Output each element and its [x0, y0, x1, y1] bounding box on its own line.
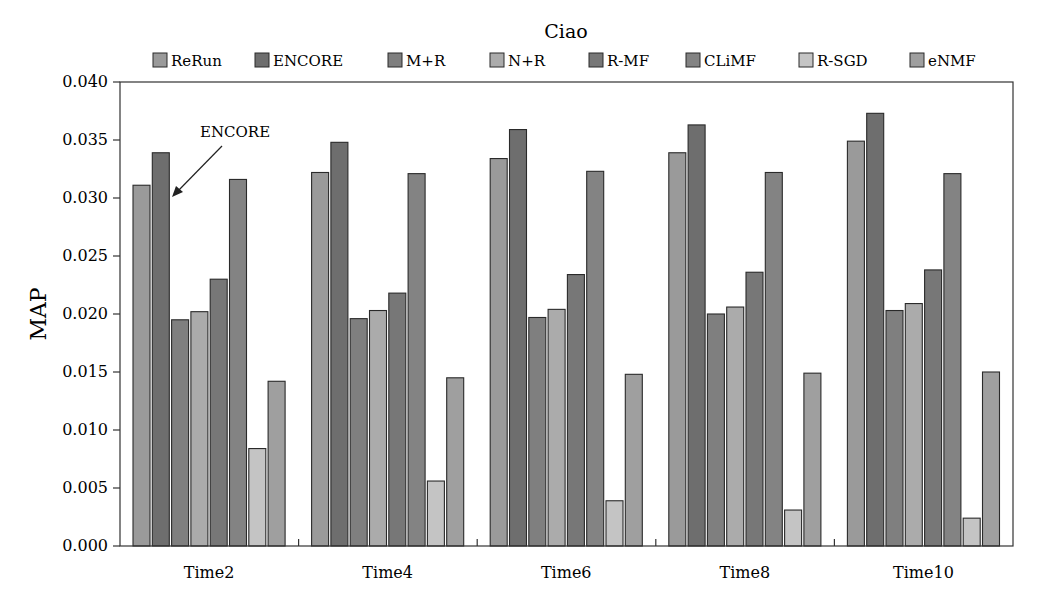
bar-r-sgd: R-SGD Time10: 0.0024 [963, 518, 980, 546]
x-category-label: Time10 [893, 563, 954, 582]
bar-encore: ENCORE Time6: 0.0359 [510, 130, 527, 546]
bar-m-r: M+R Time8: 0.02 [707, 314, 724, 546]
legend-label: CLiMF [704, 52, 756, 70]
legend-item-climf: CLiMF [686, 52, 756, 70]
bar-chart: Ciao ReRunENCOREM+RN+RR-MFCLiMFR-SGDeNMF… [0, 0, 1041, 612]
bar-r-mf: R-MF Time2: 0.023 [210, 279, 227, 546]
legend-item-enmf: eNMF [910, 52, 976, 70]
x-category-label: Time2 [184, 563, 235, 582]
bar-r-sgd: R-SGD Time6: 0.0039 [606, 501, 623, 546]
bar-climf: CLiMF Time10: 0.0321 [944, 174, 961, 546]
bar-climf: CLiMF Time4: 0.0321 [408, 174, 425, 546]
bar-rerun: ReRun Time8: 0.0339 [669, 153, 686, 546]
legend-swatch [255, 53, 269, 67]
bar-n-r: N+R Time10: 0.0209 [905, 304, 922, 546]
bar-r-mf: R-MF Time10: 0.0238 [925, 270, 942, 546]
encore-annotation: ENCORE [172, 123, 270, 197]
bar-n-r: N+R Time8: 0.0206 [727, 307, 744, 546]
legend-label: R-SGD [817, 52, 868, 70]
bar-enmf: eNMF Time8: 0.0149 [804, 373, 821, 546]
y-tick-label: 0.025 [62, 246, 108, 265]
bar-n-r: N+R Time6: 0.0204 [548, 309, 565, 546]
y-tick-label: 0.010 [62, 420, 108, 439]
annotation-arrow-line [176, 146, 222, 193]
bar-r-sgd: R-SGD Time4: 0.0056 [427, 481, 444, 546]
y-tick-label: 0.030 [62, 188, 108, 207]
bar-m-r: M+R Time4: 0.0196 [350, 319, 367, 546]
bar-rerun: ReRun Time2: 0.0311 [133, 185, 150, 546]
legend: ReRunENCOREM+RN+RR-MFCLiMFR-SGDeNMF [153, 52, 976, 70]
legend-label: M+R [406, 52, 446, 70]
bar-enmf: eNMF Time10: 0.015 [983, 372, 1000, 546]
x-category-label: Time4 [362, 563, 413, 582]
legend-swatch [910, 53, 924, 67]
legend-item-r-mf: R-MF [589, 52, 649, 70]
bars: ReRun Time2: 0.0311ENCORE Time2: 0.0339M… [133, 113, 1000, 546]
bar-rerun: ReRun Time6: 0.0334 [490, 159, 507, 546]
bar-r-mf: R-MF Time4: 0.0218 [389, 293, 406, 546]
x-category-label: Time6 [541, 563, 592, 582]
y-tick-label: 0.020 [62, 304, 108, 323]
bar-encore: ENCORE Time10: 0.0373 [867, 113, 884, 546]
legend-label: eNMF [928, 52, 976, 70]
y-axis: 0.0000.0050.0100.0150.0200.0250.0300.035… [62, 72, 120, 555]
annotation-label: ENCORE [200, 123, 270, 141]
bar-group-time8: ReRun Time8: 0.0339ENCORE Time8: 0.0363M… [669, 125, 821, 546]
bar-climf: CLiMF Time6: 0.0323 [587, 171, 604, 546]
legend-item-encore: ENCORE [255, 52, 343, 70]
bar-climf: CLiMF Time8: 0.0322 [765, 172, 782, 546]
bar-r-sgd: R-SGD Time2: 0.0084 [249, 449, 266, 546]
bar-group-time6: ReRun Time6: 0.0334ENCORE Time6: 0.0359M… [490, 130, 642, 546]
bar-encore: ENCORE Time8: 0.0363 [688, 125, 705, 546]
legend-item-r-sgd: R-SGD [799, 52, 868, 70]
bar-r-mf: R-MF Time6: 0.0234 [567, 275, 584, 546]
bar-enmf: eNMF Time6: 0.0148 [625, 374, 642, 546]
bar-rerun: ReRun Time4: 0.0322 [312, 172, 329, 546]
bar-m-r: M+R Time6: 0.0197 [529, 317, 546, 546]
legend-swatch [799, 53, 813, 67]
bar-encore: ENCORE Time4: 0.0348 [331, 142, 348, 546]
bar-enmf: eNMF Time4: 0.0145 [447, 378, 464, 546]
legend-label: ReRun [171, 52, 222, 70]
bar-m-r: M+R Time10: 0.0203 [886, 311, 903, 546]
chart-title: Ciao [544, 20, 587, 42]
y-tick-label: 0.000 [62, 536, 108, 555]
bar-group-time4: ReRun Time4: 0.0322ENCORE Time4: 0.0348M… [312, 142, 464, 546]
y-tick-label: 0.035 [62, 130, 108, 149]
bar-n-r: N+R Time4: 0.0203 [370, 311, 387, 546]
bar-m-r: M+R Time2: 0.0195 [172, 320, 189, 546]
bar-enmf: eNMF Time2: 0.0142 [268, 381, 285, 546]
bar-n-r: N+R Time2: 0.0202 [191, 312, 208, 546]
y-tick-label: 0.015 [62, 362, 108, 381]
legend-label: R-MF [607, 52, 649, 70]
legend-swatch [388, 53, 402, 67]
legend-label: N+R [508, 52, 546, 70]
bar-encore: ENCORE Time2: 0.0339 [152, 153, 169, 546]
bar-climf: CLiMF Time2: 0.0316 [230, 179, 247, 546]
legend-swatch [153, 53, 167, 67]
y-tick-label: 0.040 [62, 72, 108, 91]
bar-group-time10: ReRun Time10: 0.0349ENCORE Time10: 0.037… [847, 113, 999, 546]
bar-rerun: ReRun Time10: 0.0349 [847, 141, 864, 546]
bar-group-time2: ReRun Time2: 0.0311ENCORE Time2: 0.0339M… [133, 153, 285, 546]
legend-swatch [686, 53, 700, 67]
y-axis-title: MAP [26, 287, 51, 340]
y-tick-label: 0.005 [62, 478, 108, 497]
legend-swatch [490, 53, 504, 67]
x-category-label: Time8 [720, 563, 771, 582]
legend-label: ENCORE [273, 52, 343, 70]
legend-item-m-r: M+R [388, 52, 446, 70]
legend-swatch [589, 53, 603, 67]
legend-item-rerun: ReRun [153, 52, 222, 70]
bar-r-mf: R-MF Time8: 0.0236 [746, 272, 763, 546]
bar-r-sgd: R-SGD Time8: 0.0031 [785, 510, 802, 546]
legend-item-n-r: N+R [490, 52, 546, 70]
